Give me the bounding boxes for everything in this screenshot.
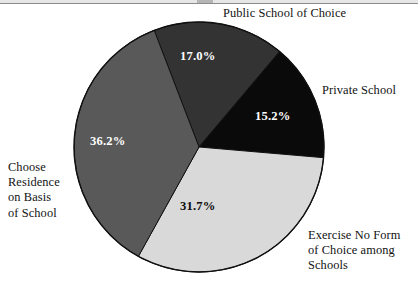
pie-value-label-choose-residence: 36.2% bbox=[90, 134, 126, 149]
pie-callout-label-exercise-no-form-of-choice: Exercise No Form of Choice among Schools bbox=[308, 228, 400, 274]
pie-callout-label-public-school-of-choice: Public School of Choice bbox=[223, 6, 346, 21]
pie-callout-label-private-school: Private School bbox=[322, 83, 396, 98]
pie-chart-figure: 17.0% 15.2% 36.2% 31.7% Public School of… bbox=[0, 0, 418, 286]
pie-value-label-private-school: 15.2% bbox=[255, 109, 291, 124]
pie-callout-label-choose-residence: Choose Residence on Basis of School bbox=[8, 160, 60, 221]
pie-value-label-exercise-no-form-of-choice: 31.7% bbox=[180, 199, 216, 214]
pie-value-label-public-school-of-choice: 17.0% bbox=[180, 49, 216, 64]
